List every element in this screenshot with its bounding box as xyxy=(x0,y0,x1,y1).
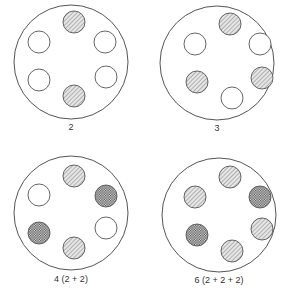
rotor-panel: 2 xyxy=(14,5,128,132)
rotor-panel: 4 (2 + 2) xyxy=(14,156,128,284)
tube-slot-crosshatched-upper-right xyxy=(95,185,117,207)
tube-slot-empty-lower-right xyxy=(95,217,117,239)
tube-slot-empty-lower-right xyxy=(95,66,117,88)
tube-slot-hatched-bottom xyxy=(221,240,243,262)
tube-slot-empty-upper-left xyxy=(28,184,50,206)
tube-slot-hatched-lower-right xyxy=(251,67,273,89)
rotor-outline xyxy=(160,6,274,120)
tube-slot-empty-upper-right xyxy=(249,33,271,55)
tube-slot-hatched-upper-left xyxy=(184,186,206,208)
tube-slot-hatched-lower-right xyxy=(251,218,273,240)
tube-slot-crosshatched-lower-left xyxy=(186,224,208,246)
tube-slot-empty-upper-right xyxy=(94,31,116,53)
rotor-panel: 6 (2 + 2 + 2) xyxy=(162,158,276,285)
tube-slot-hatched-top xyxy=(63,165,85,187)
tube-slot-crosshatched-lower-left xyxy=(28,222,50,244)
panel-label: 3 xyxy=(214,123,219,133)
tube-slot-empty-lower-left xyxy=(28,69,50,91)
tube-slot-empty-upper-left xyxy=(28,31,50,53)
rotor-diagrams: 234 (2 + 2)6 (2 + 2 + 2) xyxy=(0,0,288,293)
panel-label: 2 xyxy=(68,122,73,132)
panel-label: 6 (2 + 2 + 2) xyxy=(194,275,243,285)
tube-slot-hatched-top xyxy=(219,13,241,35)
rotor-panel: 3 xyxy=(160,6,274,133)
tube-slot-hatched-bottom xyxy=(63,237,85,259)
tube-slot-empty-upper-left xyxy=(184,33,206,55)
tube-slot-empty-bottom xyxy=(221,87,243,109)
tube-slot-hatched-top xyxy=(63,11,85,33)
panel-label: 4 (2 + 2) xyxy=(54,274,88,284)
tube-slot-hatched-top xyxy=(219,166,241,188)
tube-slot-crosshatched-upper-right xyxy=(249,186,271,208)
tube-slot-hatched-lower-left xyxy=(186,71,208,93)
tube-slot-hatched-bottom xyxy=(63,85,85,107)
